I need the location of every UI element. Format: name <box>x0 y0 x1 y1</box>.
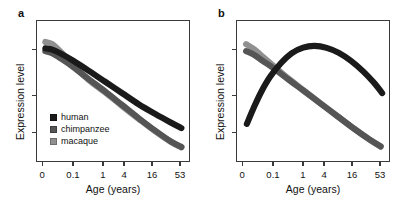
x-tick-label: 0.1 <box>66 169 79 180</box>
x-tick-label: 16 <box>147 169 158 180</box>
legend-item-human: human <box>50 112 110 123</box>
x-tick-mark <box>323 162 324 166</box>
panel-a-y-axis-label: Expression level <box>14 64 26 140</box>
legend-swatch-chimpanzee <box>50 126 57 133</box>
x-tick-mark <box>102 162 103 166</box>
panel-b-plot-area <box>236 20 390 162</box>
x-tick-label: 53 <box>175 169 186 180</box>
x-tick-label: 1 <box>100 169 105 180</box>
x-tick-mark <box>302 162 303 166</box>
legend: humanchimpanzeemacaque <box>50 112 110 148</box>
x-tick-mark <box>351 162 352 166</box>
legend-label: human <box>61 113 89 122</box>
x-tick-label: 4 <box>321 169 326 180</box>
x-tick-mark <box>242 162 243 166</box>
y-tick-mark <box>32 49 36 50</box>
x-tick-label: 16 <box>347 169 358 180</box>
legend-item-chimpanzee: chimpanzee <box>50 124 110 135</box>
x-tick-mark <box>379 162 380 166</box>
x-tick-label: 53 <box>375 169 386 180</box>
panel-a-x-axis-label: Age (years) <box>36 183 190 195</box>
legend-label: macaque <box>61 137 98 146</box>
y-tick-mark <box>32 132 36 133</box>
panel-a: a Expression level 00.1141653 Age (years… <box>0 0 200 208</box>
legend-label: chimpanzee <box>61 125 110 134</box>
y-tick-mark <box>32 95 36 96</box>
panel-b-curves <box>237 21 389 161</box>
x-tick-mark <box>42 162 43 166</box>
x-tick-mark <box>179 162 180 166</box>
panel-a-label: a <box>18 8 24 19</box>
panel-b-label: b <box>218 8 225 19</box>
legend-swatch-macaque <box>50 138 57 145</box>
panel-b-x-axis-label: Age (years) <box>236 183 390 195</box>
legend-swatch-human <box>50 114 57 121</box>
x-tick-label: 1 <box>300 169 305 180</box>
y-tick-mark <box>232 49 236 50</box>
x-tick-label: 0.1 <box>266 169 279 180</box>
panel-b: b Expression level 00.1141653 Age (years… <box>200 0 400 208</box>
figure-container: a Expression level 00.1141653 Age (years… <box>0 0 400 208</box>
x-tick-mark <box>151 162 152 166</box>
x-tick-label: 4 <box>121 169 126 180</box>
legend-item-macaque: macaque <box>50 136 110 147</box>
y-tick-mark <box>232 132 236 133</box>
x-tick-label: 0 <box>240 169 245 180</box>
x-tick-mark <box>123 162 124 166</box>
y-tick-mark <box>232 95 236 96</box>
x-tick-mark <box>72 162 73 166</box>
panel-b-y-axis-label: Expression level <box>214 64 226 140</box>
x-tick-label: 0 <box>40 169 45 180</box>
x-tick-mark <box>272 162 273 166</box>
